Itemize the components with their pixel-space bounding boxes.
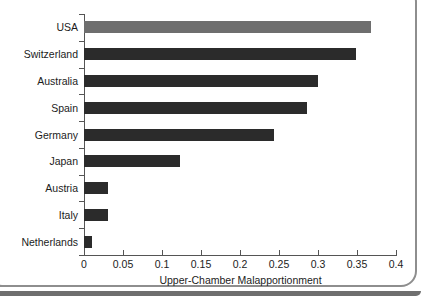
x-tick bbox=[396, 250, 397, 255]
x-tick bbox=[279, 250, 280, 255]
category-label-spain: Spain bbox=[2, 102, 78, 114]
bar-usa bbox=[84, 21, 371, 33]
x-tick-label-3: 0.15 bbox=[181, 258, 221, 270]
bar-spain bbox=[84, 102, 307, 114]
category-label-germany: Germany bbox=[2, 129, 78, 141]
y-tick bbox=[79, 148, 84, 149]
y-tick bbox=[79, 14, 84, 15]
bar-netherlands bbox=[84, 236, 92, 248]
x-tick-label-4: 0.2 bbox=[220, 258, 260, 270]
x-tick bbox=[357, 250, 358, 255]
x-tick-label-7: 0.35 bbox=[337, 258, 377, 270]
x-tick bbox=[318, 250, 319, 255]
y-tick bbox=[79, 228, 84, 229]
bar-austria bbox=[84, 182, 108, 194]
y-tick bbox=[79, 41, 84, 42]
bar-italy bbox=[84, 209, 108, 221]
x-tick-label-0: 0 bbox=[64, 258, 104, 270]
category-label-usa: USA bbox=[2, 21, 78, 33]
y-tick bbox=[79, 255, 84, 256]
x-tick-label-1: 0.05 bbox=[103, 258, 143, 270]
x-tick bbox=[123, 250, 124, 255]
category-label-italy: Italy bbox=[2, 209, 78, 221]
y-tick bbox=[79, 175, 84, 176]
bar-japan bbox=[84, 155, 180, 167]
x-tick bbox=[162, 250, 163, 255]
category-label-switzerland: Switzerland bbox=[2, 48, 78, 60]
category-label-australia: Australia bbox=[2, 75, 78, 87]
x-tick bbox=[240, 250, 241, 255]
x-tick-label-8: 0.4 bbox=[376, 258, 416, 270]
x-axis-line bbox=[84, 255, 397, 256]
bar-germany bbox=[84, 129, 274, 141]
bar-australia bbox=[84, 75, 318, 87]
y-tick bbox=[79, 201, 84, 202]
y-tick bbox=[79, 121, 84, 122]
x-tick bbox=[201, 250, 202, 255]
x-axis-title: Upper-Chamber Malapportionment bbox=[84, 274, 397, 286]
x-tick-label-2: 0.1 bbox=[142, 258, 182, 270]
bar-switzerland bbox=[84, 48, 356, 60]
y-tick bbox=[79, 94, 84, 95]
y-tick bbox=[79, 68, 84, 69]
page-edge-shadow bbox=[0, 291, 421, 296]
x-tick bbox=[84, 250, 85, 255]
chart-page: USASwitzerlandAustraliaSpainGermanyJapan… bbox=[0, 0, 431, 303]
category-label-austria: Austria bbox=[2, 182, 78, 194]
x-tick-label-5: 0.25 bbox=[259, 258, 299, 270]
category-label-netherlands: Netherlands bbox=[2, 236, 78, 248]
y-axis-category-labels: USASwitzerlandAustraliaSpainGermanyJapan… bbox=[0, 0, 78, 287]
x-tick-label-6: 0.3 bbox=[298, 258, 338, 270]
bar-chart: USASwitzerlandAustraliaSpainGermanyJapan… bbox=[0, 0, 417, 287]
category-label-japan: Japan bbox=[2, 155, 78, 167]
